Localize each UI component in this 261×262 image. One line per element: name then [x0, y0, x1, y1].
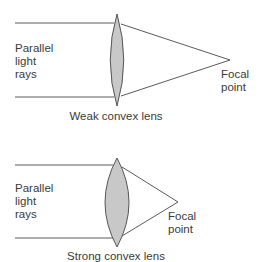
weak-refracted-ray-bottom	[121, 60, 230, 96]
strong-parallel-rays-label: Parallel light rays	[15, 182, 53, 221]
weak-convex-lens-icon	[110, 14, 124, 106]
strong-lens-caption: Strong convex lens	[58, 250, 174, 262]
lens-diagram	[0, 0, 261, 262]
weak-refracted-ray-top	[121, 24, 230, 60]
weak-parallel-rays-label: Parallel light rays	[15, 42, 53, 81]
weak-focal-point-label: Focal point	[221, 68, 249, 94]
weak-lens-caption: Weak convex lens	[60, 110, 172, 123]
strong-focal-point-label: Focal point	[168, 210, 196, 236]
strong-refracted-ray-top	[122, 167, 178, 202]
